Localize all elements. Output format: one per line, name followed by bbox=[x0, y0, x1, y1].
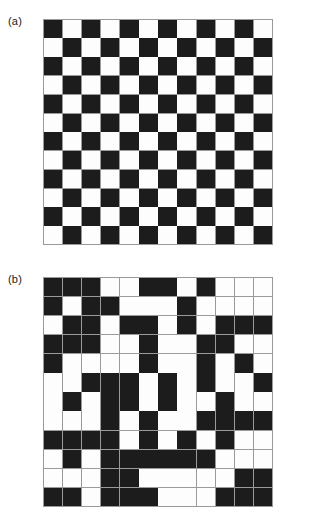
grid-cell bbox=[177, 170, 195, 188]
grid-cell bbox=[101, 170, 119, 188]
grid-cell bbox=[216, 469, 234, 487]
grid-cell bbox=[82, 20, 100, 38]
grid-cell bbox=[197, 354, 215, 372]
grid-cell bbox=[44, 335, 62, 353]
grid-cell bbox=[254, 20, 272, 38]
grid-cell bbox=[120, 170, 138, 188]
grid-cell bbox=[139, 114, 157, 132]
grid-cell bbox=[216, 170, 234, 188]
grid-cell bbox=[177, 411, 195, 429]
grid-cell bbox=[235, 76, 253, 94]
grid-cell bbox=[63, 57, 81, 75]
grid-cell bbox=[254, 114, 272, 132]
grid-cell bbox=[63, 278, 81, 296]
grid-cell bbox=[197, 450, 215, 468]
grid-cell bbox=[139, 411, 157, 429]
grid-cell bbox=[197, 488, 215, 506]
grid-cell bbox=[82, 38, 100, 56]
grid-cell bbox=[82, 354, 100, 372]
grid-cell bbox=[101, 57, 119, 75]
grid-cell bbox=[44, 189, 62, 207]
grid-cell bbox=[44, 373, 62, 391]
grid-cell bbox=[63, 392, 81, 410]
grid-cell bbox=[158, 373, 176, 391]
grid-cell bbox=[139, 38, 157, 56]
grid-cell bbox=[235, 207, 253, 225]
grid-cell bbox=[197, 95, 215, 113]
grid-cell bbox=[139, 278, 157, 296]
grid-cell bbox=[158, 151, 176, 169]
grid-cell bbox=[216, 431, 234, 449]
grid-cell bbox=[254, 278, 272, 296]
grid-cell bbox=[139, 207, 157, 225]
grid-cell bbox=[197, 431, 215, 449]
grid-cell bbox=[254, 335, 272, 353]
checkerboard-grid-a bbox=[43, 19, 273, 245]
grid-cell bbox=[216, 411, 234, 429]
grid-cell bbox=[139, 297, 157, 315]
grid-cell bbox=[44, 226, 62, 244]
grid-cell bbox=[177, 226, 195, 244]
grid-cell bbox=[197, 373, 215, 391]
grid-cell bbox=[254, 151, 272, 169]
grid-cell bbox=[139, 354, 157, 372]
grid-cell bbox=[82, 226, 100, 244]
grid-cell bbox=[82, 114, 100, 132]
grid-cell bbox=[158, 488, 176, 506]
grid-cell bbox=[197, 278, 215, 296]
grid-cell bbox=[44, 431, 62, 449]
grid-cell bbox=[82, 189, 100, 207]
grid-cell bbox=[177, 38, 195, 56]
grid-cell bbox=[101, 189, 119, 207]
grid-cell bbox=[235, 354, 253, 372]
grid-cell bbox=[254, 38, 272, 56]
grid-cell bbox=[63, 469, 81, 487]
grid-cell bbox=[216, 226, 234, 244]
grid-cell bbox=[235, 411, 253, 429]
grid-cell bbox=[63, 114, 81, 132]
grid-cell bbox=[235, 226, 253, 244]
grid-cell bbox=[120, 278, 138, 296]
grid-cell bbox=[216, 38, 234, 56]
grid-cell bbox=[254, 207, 272, 225]
grid-cell bbox=[139, 57, 157, 75]
grid-cell bbox=[177, 488, 195, 506]
grid-cell bbox=[82, 335, 100, 353]
grid-cell bbox=[120, 20, 138, 38]
grid-cell bbox=[101, 411, 119, 429]
grid-cell bbox=[44, 354, 62, 372]
grid-cell bbox=[177, 373, 195, 391]
grid-cell bbox=[235, 392, 253, 410]
grid-cell bbox=[120, 373, 138, 391]
grid-cell bbox=[44, 450, 62, 468]
grid-cell bbox=[63, 207, 81, 225]
grid-cell bbox=[101, 20, 119, 38]
grid-cell bbox=[139, 76, 157, 94]
grid-cell bbox=[82, 469, 100, 487]
grid-cell bbox=[82, 488, 100, 506]
grid-cell bbox=[254, 450, 272, 468]
grid-cell bbox=[216, 278, 234, 296]
grid-cell bbox=[158, 335, 176, 353]
grid-cell bbox=[158, 469, 176, 487]
grid-cell bbox=[44, 57, 62, 75]
grid-cell bbox=[44, 20, 62, 38]
grid-cell bbox=[44, 207, 62, 225]
grid-cell bbox=[82, 450, 100, 468]
grid-cell bbox=[158, 411, 176, 429]
grid-cell bbox=[101, 373, 119, 391]
grid-cell bbox=[177, 76, 195, 94]
grid-cell bbox=[63, 373, 81, 391]
grid-cell bbox=[139, 373, 157, 391]
grid-cell bbox=[139, 431, 157, 449]
grid-cell bbox=[216, 297, 234, 315]
grid-cell bbox=[63, 189, 81, 207]
grid-cell bbox=[235, 132, 253, 150]
grid-cell bbox=[235, 189, 253, 207]
grid-cell bbox=[158, 20, 176, 38]
grid-cell bbox=[120, 297, 138, 315]
grid-cell bbox=[44, 151, 62, 169]
grid-cell bbox=[82, 392, 100, 410]
grid-cell bbox=[63, 316, 81, 334]
grid-cell bbox=[63, 38, 81, 56]
